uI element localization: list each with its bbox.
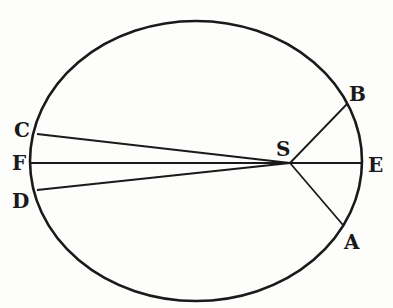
diagram-svg: S B E A C F D	[0, 0, 393, 308]
label-C: C	[14, 118, 30, 142]
segment-S-A	[290, 163, 343, 225]
orbit-ellipse	[30, 21, 362, 301]
label-E: E	[368, 153, 383, 177]
orbit-diagram: S B E A C F D	[0, 0, 393, 308]
label-A: A	[343, 230, 360, 254]
segment-S-C	[37, 134, 290, 163]
label-D: D	[12, 189, 29, 213]
label-S: S	[276, 137, 290, 161]
segment-S-D	[37, 163, 290, 190]
label-F: F	[12, 151, 26, 175]
segment-S-B	[290, 104, 347, 163]
label-B: B	[349, 82, 366, 106]
